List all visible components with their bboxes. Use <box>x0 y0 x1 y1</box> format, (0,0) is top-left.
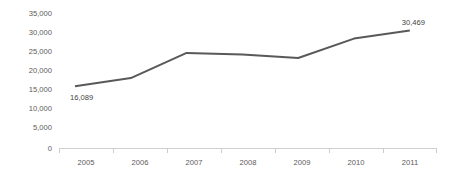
x-tick-label-2008: 2008 <box>240 158 257 167</box>
x-tick-label-2010: 2010 <box>348 158 365 167</box>
x-tick-label-2005: 2005 <box>78 158 95 167</box>
x-tick-label-2011: 2011 <box>402 158 418 167</box>
y-tick-label-0: 0 <box>48 144 52 153</box>
x-tick-label-2006: 2006 <box>132 158 149 167</box>
data-label-last: 30,469 <box>402 18 425 27</box>
y-tick-label-5000: 5,000 <box>33 123 52 132</box>
y-tick-label-25000: 25,000 <box>29 47 52 56</box>
y-tick-label-30000: 30,000 <box>29 28 52 37</box>
x-tick-label-2007: 2007 <box>186 158 203 167</box>
data-label-first: 16,089 <box>70 93 93 102</box>
x-tick-label-2009: 2009 <box>294 158 311 167</box>
y-tick-label-35000: 35,000 <box>29 9 52 18</box>
y-tick-label-15000: 15,000 <box>29 85 52 94</box>
chart-canvas: 35,000 30,000 25,000 20,000 15,000 10,00… <box>0 0 455 181</box>
y-tick-label-20000: 20,000 <box>29 66 52 75</box>
chart-background <box>0 0 455 181</box>
y-tick-label-10000: 10,000 <box>29 104 52 113</box>
line-chart: 35,000 30,000 25,000 20,000 15,000 10,00… <box>0 0 455 181</box>
